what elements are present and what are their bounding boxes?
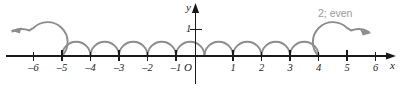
y-axis-label: y bbox=[186, 2, 191, 13]
tick-label--4: –4 bbox=[81, 63, 101, 74]
graph-figure: –6 –5 –4 –3 –2 –1 1 2 3 4 5 6 1 O x y 2;… bbox=[0, 0, 407, 89]
arch-two bbox=[148, 42, 177, 56]
arch-ten bbox=[262, 42, 291, 56]
annotation-text: 2; even bbox=[318, 8, 352, 19]
tick-label-4: 4 bbox=[309, 63, 329, 74]
tick-label-5: 5 bbox=[337, 63, 357, 74]
tick-label-y-1: 1 bbox=[186, 24, 191, 35]
origin-label: O bbox=[184, 62, 192, 73]
arch-minus2 bbox=[91, 42, 120, 56]
tick-label--1: –1 bbox=[166, 63, 186, 74]
arch-left-partial bbox=[13, 22, 68, 56]
tick-label--5: –5 bbox=[52, 63, 72, 74]
tick-label-1: 1 bbox=[223, 63, 243, 74]
tick-label--3: –3 bbox=[109, 63, 129, 74]
tick-label-6: 6 bbox=[366, 63, 386, 74]
arch-zero bbox=[119, 42, 148, 56]
tick-label-3: 3 bbox=[280, 63, 300, 74]
tick-label--2: –2 bbox=[138, 63, 158, 74]
tick-label--6: –6 bbox=[24, 63, 44, 74]
arch-four bbox=[176, 42, 205, 56]
arch-six bbox=[205, 42, 234, 56]
y-axis-arrow-icon bbox=[192, 3, 199, 13]
arch-eight bbox=[233, 42, 262, 56]
arch-right-partial bbox=[313, 22, 369, 56]
tick-label-2: 2 bbox=[252, 63, 272, 74]
curve-arrow-left-icon bbox=[11, 28, 22, 34]
x-axis-label: x bbox=[390, 60, 395, 71]
